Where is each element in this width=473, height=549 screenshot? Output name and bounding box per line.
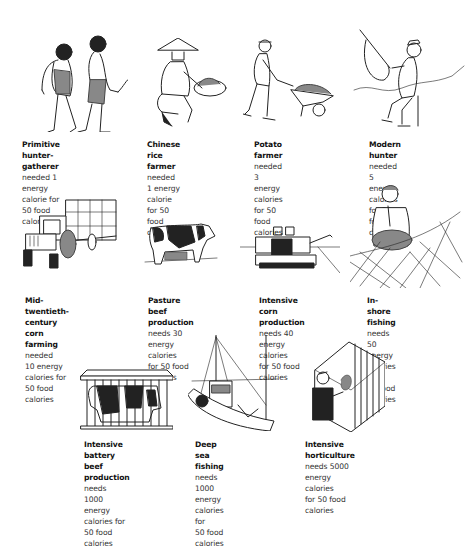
caption: Deep sea fishing needs 1000 energy calor… xyxy=(195,439,224,549)
caption: Potato farmer needed 3 energy calories f… xyxy=(254,139,283,238)
caption-title: Deep sea fishing xyxy=(195,440,224,471)
caption-line: 50 food calories xyxy=(84,527,130,549)
caption-title: corn farming xyxy=(25,329,58,349)
caption: Intensive horticulture needs 5000 energy… xyxy=(305,439,355,516)
caption-line: needed 1 energy calorie xyxy=(147,172,180,205)
caption-title: In-shore fishing xyxy=(367,296,396,327)
combine-harvester-icon xyxy=(240,225,340,273)
tractor-icon xyxy=(20,198,120,270)
caption-line: 50 food calories xyxy=(25,383,69,405)
caption-line: 50 food calories xyxy=(195,527,224,549)
caged-cow-icon xyxy=(77,368,173,430)
cow-icon xyxy=(143,222,219,270)
wheelbarrow-farmer-icon xyxy=(243,38,338,124)
caption-line: needs 30 energy calories xyxy=(148,328,194,361)
rice-farmer-icon xyxy=(148,38,228,128)
greenhouse-icon xyxy=(305,340,385,432)
caption-line: needed 3 energy calories xyxy=(254,161,283,205)
caption-title: Pasture beef production xyxy=(148,296,194,327)
fishing-boat-icon xyxy=(188,335,278,431)
caption-text: needs xyxy=(195,473,217,482)
caption-title: production xyxy=(84,473,130,482)
two-cavemen-icon xyxy=(18,10,128,132)
caption-title: Potato farmer xyxy=(254,140,282,160)
caption-line: for 50 food calories xyxy=(305,494,355,516)
caption-title: Intensive horticulture xyxy=(305,440,355,460)
bow-hunter-icon xyxy=(352,26,467,130)
caption: Intensive battery beef production needs … xyxy=(84,439,130,549)
caption-text: needs xyxy=(367,329,389,338)
caption-line: 1000 energy calories for xyxy=(84,494,130,527)
caption-title: Intensive corn production xyxy=(259,296,305,327)
caption-line: 10 energy calories for xyxy=(25,361,69,383)
caption-text: needs xyxy=(84,484,106,493)
caption-title: Intensive battery beef xyxy=(84,440,123,471)
caption-line: 1000 energy calories for xyxy=(195,483,224,527)
caption-text: needed xyxy=(25,351,53,360)
caption-line: needs 5000 energy calories xyxy=(305,461,355,494)
caption-title: Mid-twentieth-century xyxy=(25,296,69,327)
caption-title: Primitive hunter-gatherer xyxy=(22,140,60,171)
fisherman-net-icon xyxy=(350,182,465,288)
caption-title: Chinese rice farmer xyxy=(147,140,180,171)
caption: Mid-twentieth-century corn farming neede… xyxy=(25,295,69,405)
caption-title: Modern hunter xyxy=(369,140,401,160)
